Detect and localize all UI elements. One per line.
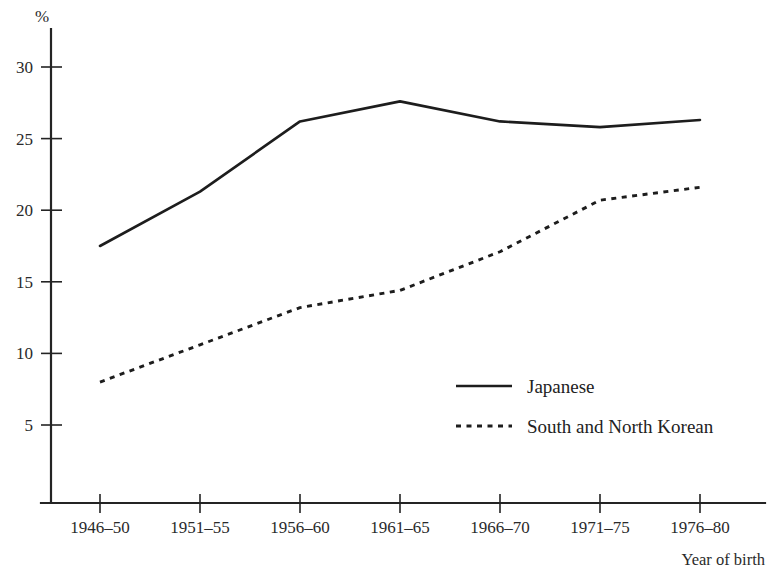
line-chart: % 30 25 20 15 10 5 — [0, 0, 774, 573]
chart-legend: Japanese South and North Korean — [456, 376, 714, 437]
y-axis-unit-label: % — [35, 7, 49, 26]
x-axis-title: Year of birth — [681, 550, 765, 569]
legend-label-south-and-north-korean: South and North Korean — [527, 416, 714, 437]
y-tick-label-20: 20 — [16, 201, 33, 220]
y-axis-tick-labels: 30 25 20 15 10 5 — [16, 58, 33, 435]
legend-label-japanese: Japanese — [527, 376, 595, 397]
x-tick-label-1961-65: 1961–65 — [370, 518, 430, 537]
x-tick-label-1966-70: 1966–70 — [470, 518, 530, 537]
x-tick-label-1971-75: 1971–75 — [570, 518, 630, 537]
y-tick-label-30: 30 — [16, 58, 33, 77]
y-tick-label-10: 10 — [16, 344, 33, 363]
x-tick-label-1951-55: 1951–55 — [170, 518, 230, 537]
series-line-japanese — [100, 101, 700, 246]
x-tick-label-1946-50: 1946–50 — [70, 518, 130, 537]
x-tick-label-1976-80: 1976–80 — [670, 518, 730, 537]
x-tick-label-1956-60: 1956–60 — [270, 518, 330, 537]
y-tick-label-25: 25 — [16, 130, 33, 149]
y-tick-label-15: 15 — [16, 273, 33, 292]
chart-container: % 30 25 20 15 10 5 — [0, 0, 774, 573]
x-axis-tick-labels: 1946–50 1951–55 1956–60 1961–65 1966–70 … — [70, 518, 730, 537]
series-line-south-and-north-korean — [100, 187, 700, 382]
y-tick-label-5: 5 — [25, 416, 34, 435]
